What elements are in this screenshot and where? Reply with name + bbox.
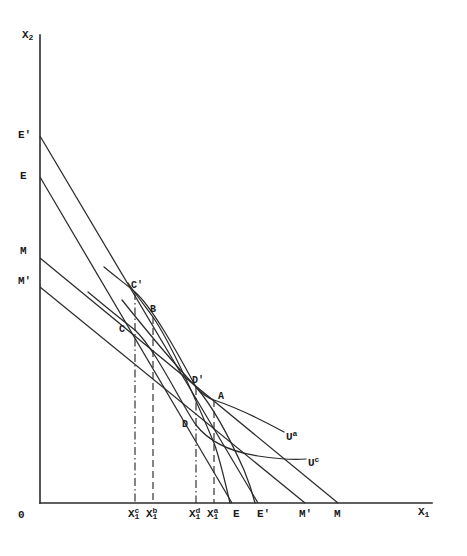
budget-lines-group xyxy=(40,136,338,503)
y-intercept-label-M: M xyxy=(20,246,27,257)
y-intercept-label-E: E xyxy=(20,171,27,182)
budget-line-M-prime xyxy=(40,287,305,503)
budget-line-M xyxy=(40,258,338,503)
point-label-C-prime: C' xyxy=(131,281,143,291)
point-label-D: D xyxy=(182,420,188,430)
x-intercept-label-M-prime: M' xyxy=(299,509,312,520)
x-intercept-label-M: M xyxy=(334,509,341,520)
x-tick-label-x1b: Xb1 xyxy=(146,507,157,521)
y-axis-label: X2 xyxy=(22,30,33,42)
x-intercept-label-E-prime: E' xyxy=(257,509,270,520)
figure-canvas: X2 X1 0 E' E M M' E E' M' M Xc1 Xb1 Xd1 … xyxy=(0,0,467,556)
point-label-D-prime: D' xyxy=(192,376,204,386)
x-intercept-label-E: E xyxy=(233,509,240,520)
x-tick-label-x1a: Xa1 xyxy=(207,507,218,521)
indifference-curve-through-D-prime xyxy=(122,300,255,503)
budget-line-E xyxy=(40,177,232,503)
x-tick-label-x1c: Xc1 xyxy=(128,507,139,521)
guide-lines-group xyxy=(135,292,214,503)
x-tick-label-x1d: Xd1 xyxy=(189,507,200,521)
budget-line-E-prime xyxy=(40,136,258,503)
curve-label-Ua: Ua xyxy=(286,430,297,443)
indifference-curve-Ua xyxy=(104,267,284,432)
curve-label-Uc: Uc xyxy=(308,456,319,469)
y-intercept-label-M-prime: M' xyxy=(18,276,31,287)
y-intercept-label-E-prime: E' xyxy=(18,130,31,141)
diagram-svg xyxy=(0,0,467,556)
indifference-curve-through-B xyxy=(128,283,230,503)
point-label-B: B xyxy=(150,305,156,315)
axes-group xyxy=(40,35,432,503)
origin-label: 0 xyxy=(18,510,25,521)
point-label-A: A xyxy=(218,392,224,402)
point-label-C: C xyxy=(119,325,125,335)
x-axis-label: X1 xyxy=(418,507,429,519)
